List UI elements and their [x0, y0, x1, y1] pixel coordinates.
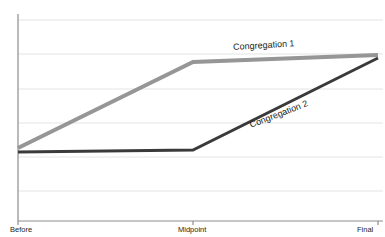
chart-plot-area [0, 0, 385, 237]
series-line-congregation-1 [18, 55, 378, 148]
x-axis-label-midpoint: Midpoint [178, 225, 206, 234]
line-chart: Before Midpoint Final Congregation 1 Con… [0, 0, 385, 237]
x-axis-label-before: Before [10, 225, 32, 234]
series-line-congregation-2 [18, 58, 378, 152]
x-axis-label-final: Final [357, 225, 373, 234]
gridlines [18, 20, 383, 191]
